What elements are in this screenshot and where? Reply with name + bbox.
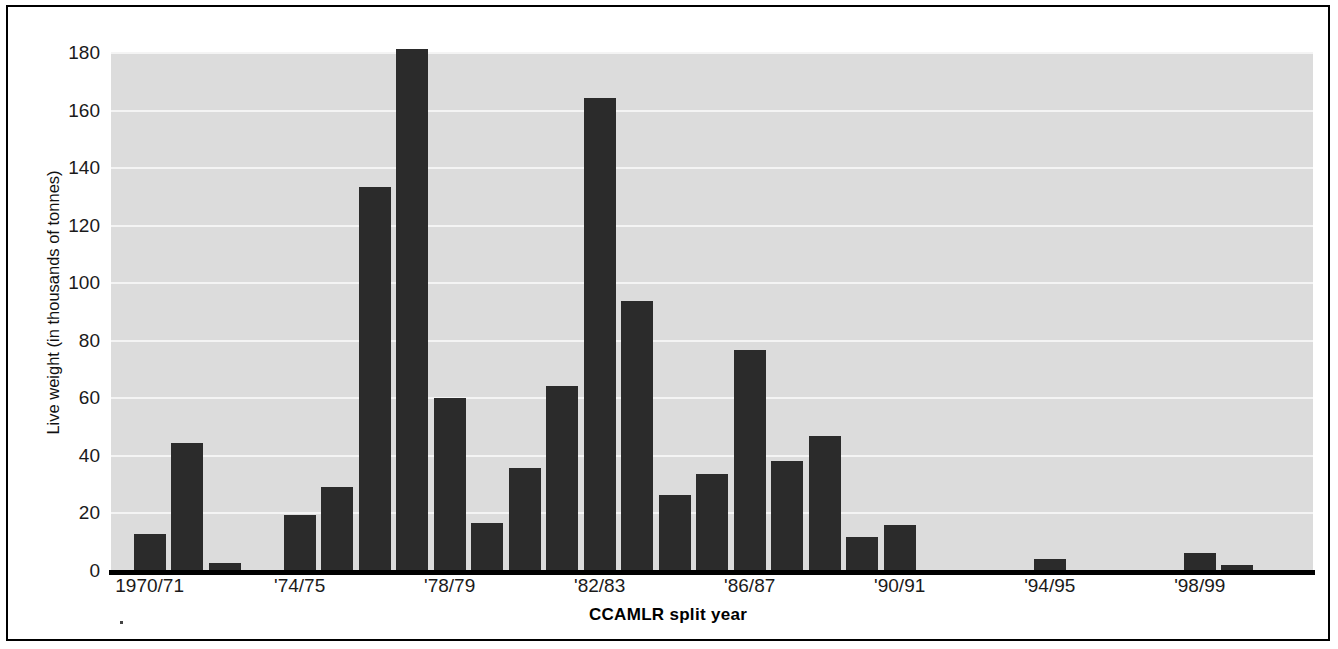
x-axis-tick-label: '98/99 — [1174, 575, 1225, 597]
bar — [1034, 559, 1066, 571]
x-axis-tick-label: '82/83 — [574, 575, 625, 597]
y-axis-tick-label: 100 — [34, 273, 100, 292]
bar — [771, 461, 803, 570]
page-speck — [120, 621, 123, 624]
bar — [434, 398, 466, 570]
x-axis-tick-label: '94/95 — [1024, 575, 1075, 597]
y-axis-tick-label: 40 — [34, 446, 100, 465]
bar — [321, 487, 353, 570]
bar — [734, 350, 766, 570]
bar — [546, 386, 578, 570]
y-axis-tick-label: 160 — [34, 101, 100, 120]
bar — [134, 534, 166, 570]
bar — [621, 301, 653, 570]
bar — [171, 443, 203, 570]
bar — [809, 436, 841, 570]
y-axis-ticks: 180160140120100806040200 — [30, 7, 100, 643]
y-axis-tick-label: 0 — [34, 561, 100, 580]
y-axis-tick-label: 180 — [34, 43, 100, 62]
bar-series — [111, 52, 1313, 570]
bar — [509, 468, 541, 570]
plot-area — [111, 52, 1313, 570]
bar — [846, 537, 878, 570]
y-axis-tick-label: 120 — [34, 216, 100, 235]
y-axis-tick-label: 80 — [34, 331, 100, 350]
bar — [884, 525, 916, 570]
bar — [471, 523, 503, 570]
bar — [584, 98, 616, 570]
x-axis-tick-label: 1970/71 — [115, 575, 184, 597]
bar — [396, 49, 428, 570]
bar — [359, 187, 391, 570]
bar — [1184, 553, 1216, 570]
x-axis-tick-label: '86/87 — [724, 575, 775, 597]
y-axis-tick-label: 20 — [34, 503, 100, 522]
bar — [284, 515, 316, 570]
x-axis-tick-label: '74/75 — [274, 575, 325, 597]
chart-frame: Live weight (in thousands of tonnes) 180… — [6, 5, 1330, 641]
bar — [659, 495, 691, 570]
x-axis-tick-label: '78/79 — [424, 575, 475, 597]
x-axis-tick-label: '90/91 — [874, 575, 925, 597]
y-axis-tick-label: 140 — [34, 158, 100, 177]
x-axis-label: CCAMLR split year — [8, 605, 1328, 625]
bar — [209, 563, 241, 570]
bar — [696, 474, 728, 570]
y-axis-tick-label: 60 — [34, 388, 100, 407]
